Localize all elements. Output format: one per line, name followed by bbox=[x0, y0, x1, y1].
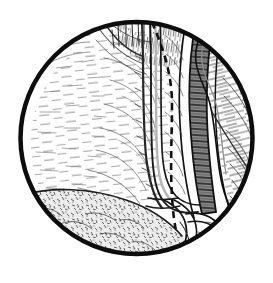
anatomical-illustration-canvas bbox=[0, 0, 273, 283]
illustration-figure bbox=[0, 0, 273, 283]
